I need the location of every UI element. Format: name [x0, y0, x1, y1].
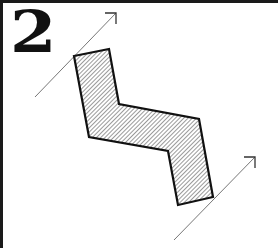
hatched-z-shape	[74, 49, 213, 205]
figure-diagram	[0, 0, 278, 248]
